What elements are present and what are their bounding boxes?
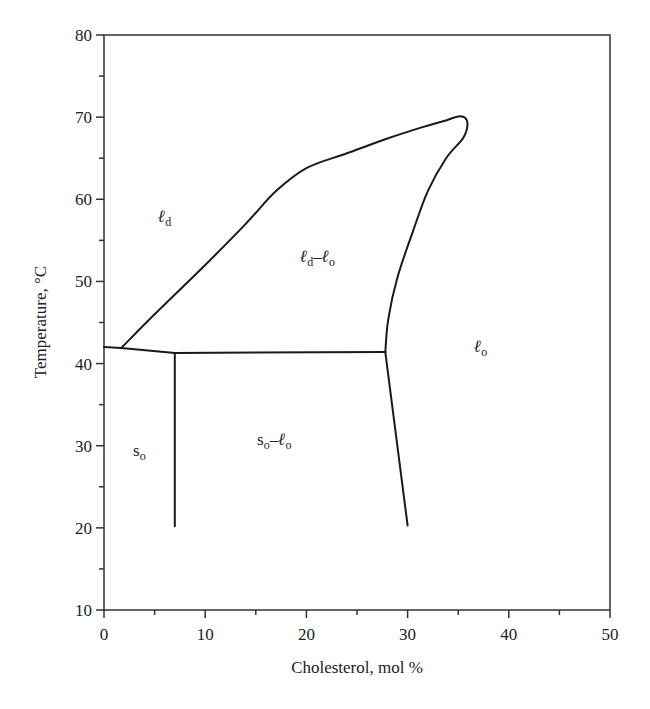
x-axis-ticks	[104, 610, 610, 618]
x-tick-label: 20	[298, 625, 315, 644]
y-axis-title: Temperature, °C	[31, 266, 50, 378]
x-tick-label: 10	[197, 625, 214, 644]
phase-boundary-line	[385, 352, 407, 525]
plot-border	[104, 35, 610, 610]
x-tick-label: 50	[602, 625, 619, 644]
y-tick-label: 10	[75, 601, 92, 620]
phase-boundary-line	[175, 352, 385, 353]
y-axis-tick-labels: 1020304050607080	[75, 26, 92, 620]
y-tick-label: 20	[75, 519, 92, 538]
region-label-ld-lo: ℓd–ℓo	[300, 247, 335, 269]
plot-frame	[104, 35, 610, 610]
phase-boundary-line	[121, 116, 467, 352]
x-axis-title: Cholesterol, mol %	[291, 658, 423, 677]
region-label-so: so	[133, 441, 146, 463]
x-tick-label: 30	[399, 625, 416, 644]
y-tick-label: 60	[75, 190, 92, 209]
phase-boundaries	[104, 116, 467, 526]
y-tick-label: 30	[75, 437, 92, 456]
x-axis-tick-labels: 01020304050	[100, 625, 619, 644]
phase-diagram: 01020304050 1020304050607080 Cholesterol…	[0, 0, 650, 709]
phase-boundary-line	[104, 347, 175, 353]
y-tick-label: 70	[75, 108, 92, 127]
region-label-so-lo: so–ℓo	[257, 430, 291, 452]
x-tick-label: 0	[100, 625, 109, 644]
region-label-ld: ℓd	[158, 207, 171, 229]
x-tick-label: 40	[500, 625, 517, 644]
y-tick-label: 50	[75, 272, 92, 291]
y-axis-ticks	[96, 35, 104, 610]
region-label-lo: ℓo	[474, 337, 487, 359]
y-tick-label: 80	[75, 26, 92, 45]
region-labels: ℓd ℓd–ℓo ℓo so so–ℓo	[133, 207, 487, 463]
y-tick-label: 40	[75, 355, 92, 374]
